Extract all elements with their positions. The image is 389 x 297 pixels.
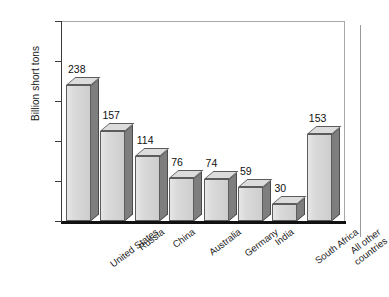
bar-south-africa[interactable] bbox=[272, 196, 305, 221]
bar-side-face bbox=[125, 125, 133, 221]
bar-australia[interactable] bbox=[169, 170, 202, 221]
bar-side-face bbox=[91, 78, 99, 221]
bar-front-face bbox=[238, 187, 263, 221]
bar-front-face bbox=[66, 85, 91, 221]
bar-side-face bbox=[194, 171, 202, 221]
bar-side-face bbox=[160, 149, 168, 221]
bar-side-face bbox=[332, 127, 340, 221]
bar-front-face bbox=[100, 131, 125, 221]
bar-russia[interactable] bbox=[100, 123, 133, 221]
bar-value-label: 59 bbox=[240, 165, 252, 177]
bar-value-label: 153 bbox=[309, 112, 327, 124]
bar-united-states[interactable] bbox=[66, 77, 99, 221]
bar-value-label: 76 bbox=[171, 156, 183, 168]
bar-front-face bbox=[135, 156, 160, 221]
bar-front-face bbox=[169, 178, 194, 221]
bar-germany[interactable] bbox=[204, 171, 237, 221]
bar-value-label: 157 bbox=[102, 109, 120, 121]
bar-value-label: 74 bbox=[206, 157, 218, 169]
bar-china[interactable] bbox=[135, 148, 168, 221]
bar-side-face bbox=[263, 181, 271, 221]
bar-front-face bbox=[307, 134, 332, 221]
bar-front-face bbox=[272, 204, 297, 221]
bar-value-label: 114 bbox=[137, 134, 154, 146]
bar-value-label: 30 bbox=[274, 182, 286, 194]
bar-india[interactable] bbox=[238, 179, 271, 221]
bar-front-face bbox=[204, 179, 229, 221]
bar-all-other-countries[interactable] bbox=[307, 126, 340, 221]
bar-value-label: 238 bbox=[68, 63, 86, 75]
bar-side-face bbox=[229, 172, 237, 221]
